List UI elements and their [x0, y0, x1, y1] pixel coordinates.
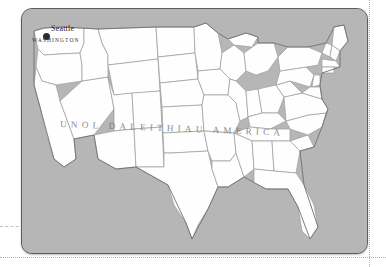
- screenshot-canvas: .st{fill:#fefefe;stroke:#9c9c9c;stroke-w…: [0, 0, 386, 267]
- dotted-guide-line-right: [369, 0, 370, 267]
- usa-map-graphic[interactable]: .st{fill:#fefefe;stroke:#9c9c9c;stroke-w…: [22, 9, 367, 253]
- washington-state-label: WASHINGTON: [32, 37, 80, 43]
- map-panel[interactable]: .st{fill:#fefefe;stroke:#9c9c9c;stroke-w…: [21, 8, 368, 254]
- seattle-city-label: Seattle: [51, 24, 74, 33]
- dotted-guide-line-bottom: [0, 257, 386, 258]
